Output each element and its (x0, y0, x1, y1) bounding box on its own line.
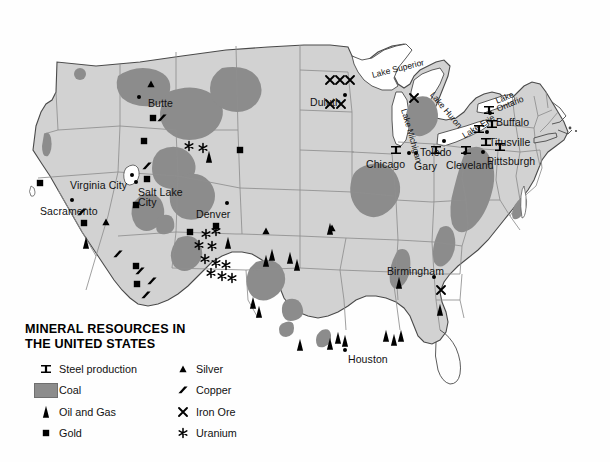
legend-title-line-1: MINERAL RESOURCES IN (25, 322, 290, 337)
oil-and-gas-icon (335, 332, 341, 344)
legend-label: Coal (59, 384, 81, 396)
gold-icon (81, 220, 87, 226)
gold-icon (134, 281, 140, 287)
city-dot-pittsburgh (481, 150, 485, 154)
uranium-icon (170, 424, 196, 442)
city-label-titusville: Titusville (489, 136, 530, 148)
uranium-icon (228, 274, 236, 283)
oil-and-gas-icon (297, 339, 303, 351)
city-label-butte: Butte (148, 97, 173, 109)
sf-bay (30, 186, 36, 196)
city-dot-duluth (343, 93, 347, 97)
map-legend: MINERAL RESOURCES IN THE UNITED STATES S… (25, 322, 290, 444)
oil-and-gas-icon (256, 306, 262, 318)
legend-row-oil-and-gas: Oil and Gas (33, 401, 137, 423)
city-dot-denver (225, 201, 229, 205)
coal-swatch-icon (33, 383, 59, 398)
oil-and-gas-icon (250, 297, 256, 309)
city-label-houston: Houston (348, 353, 388, 365)
legend-label: Steel production (59, 363, 137, 375)
city-label-chicago: Chicago (366, 158, 405, 170)
legend-row-steel-production: Steel production (33, 358, 137, 380)
gold-icon (141, 138, 147, 144)
coal-arizona-sm (156, 215, 174, 234)
legend-column-right: SilverCopperIron OreUranium (170, 358, 237, 444)
city-dot-cleveland (463, 151, 467, 155)
mineral-resources-map: ButteDuluthVirginia CitySacramentoSalt L… (0, 0, 610, 462)
city-label-denver: Denver (196, 208, 230, 220)
oil-and-gas-icon (391, 334, 397, 346)
gold-icon (187, 229, 193, 235)
uranium-icon (222, 261, 230, 270)
city-dot-sacramento (70, 198, 74, 202)
gold-icon (133, 263, 139, 269)
legend-row-silver: Silver (170, 358, 237, 380)
oil-and-gas-icon (342, 335, 348, 347)
city-label-virginia-city: Virginia City (70, 179, 127, 191)
city-dot-butte (137, 95, 141, 99)
uranium-icon (218, 272, 226, 281)
city-label-buffalo: Buffalo (496, 116, 529, 128)
coal-dakota (210, 67, 262, 112)
steel-production-icon (33, 360, 59, 378)
legend-row-uranium: Uranium (170, 423, 237, 445)
legend-label: Silver (196, 363, 223, 375)
copper-icon (170, 381, 196, 399)
city-label-city: City (138, 196, 156, 208)
legend-column-left: Steel productionCoalOil and GasGold (33, 358, 137, 444)
city-dot-toledo (442, 139, 446, 143)
gold-icon (237, 147, 243, 153)
legend-label: Uranium (196, 427, 237, 439)
legend-label: Gold (59, 427, 82, 439)
legend-row-gold: Gold (33, 423, 137, 445)
silver-icon (170, 360, 196, 378)
city-label-pittsburgh: Pittsburgh (487, 155, 535, 167)
oil-and-gas-icon (398, 330, 404, 342)
gold-icon (37, 180, 43, 186)
legend-row-iron-ore: Iron Ore (170, 401, 237, 423)
city-label-birmingham: Birmingham (387, 265, 444, 277)
city-dot-virginia-city (130, 173, 134, 177)
gold-icon (150, 115, 156, 121)
legend-title: MINERAL RESOURCES IN THE UNITED STATES (25, 322, 290, 351)
legend-label: Copper (196, 384, 231, 396)
oil-and-gas-icon (383, 330, 389, 342)
legend-row-copper: Copper (170, 380, 237, 402)
gold-icon (144, 176, 150, 182)
legend-row-coal: Coal (33, 380, 137, 402)
city-label-sacramento: Sacramento (40, 205, 98, 217)
oil-and-gas-icon (33, 403, 59, 421)
cape-cod-islands (569, 127, 578, 132)
legend-label: Oil and Gas (59, 406, 116, 418)
legend-label: Iron Ore (196, 406, 236, 418)
city-dot-houston (343, 348, 347, 352)
city-label-toledo: Toledo (420, 146, 452, 158)
uranium-icon (207, 269, 215, 278)
gold-icon (33, 424, 59, 442)
city-label-duluth: Duluth (310, 96, 341, 108)
coal-washington (74, 68, 86, 80)
city-dot-salt-lake (134, 180, 138, 184)
coal-color-swatch (34, 383, 58, 398)
city-dot-titusville (485, 130, 489, 134)
iron-ore-icon (170, 403, 196, 421)
legend-title-line-2: THE UNITED STATES (25, 337, 290, 352)
